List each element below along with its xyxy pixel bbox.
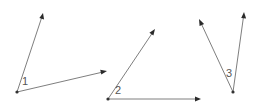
arrowhead-icon — [241, 12, 246, 19]
angle-2-vertex — [106, 97, 109, 100]
angle-1: 1 — [15, 13, 107, 94]
arrowhead-icon — [195, 97, 201, 102]
angle-2: 2 — [106, 29, 201, 102]
angle-1-ray-b — [17, 72, 103, 92]
angle-3-vertex — [231, 90, 234, 93]
angles-diagram: 1 2 3 — [0, 0, 255, 108]
angle-3-ray-a — [201, 22, 234, 92]
angle-3-ray-b — [233, 16, 244, 92]
arrowhead-icon — [39, 13, 44, 20]
arrowhead-icon — [199, 19, 204, 26]
angle-1-vertex — [15, 90, 18, 93]
angle-1-ray-a — [17, 16, 42, 92]
angle-3: 3 — [199, 12, 246, 94]
angle-2-label: 2 — [115, 84, 121, 96]
angle-1-label: 1 — [22, 75, 28, 87]
angle-3-label: 3 — [226, 67, 232, 79]
arrowhead-icon — [149, 29, 155, 36]
arrowhead-icon — [100, 70, 107, 75]
